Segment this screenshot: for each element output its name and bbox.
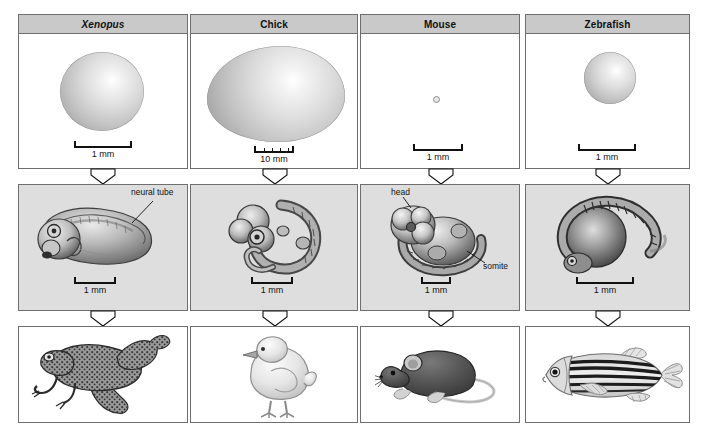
scalebar-tick [280,148,281,151]
egg-panel-mouse: Mouse 1 mm [360,14,520,169]
embryo-stage-xenopus: neural tube 1 mm [19,185,187,310]
adult-stage-mouse [361,327,519,422]
scalebar-label: 1 mm [74,285,116,295]
column-zebrafish: Zebrafish 1 mm [525,0,690,437]
scalebar-label: 1 mm [74,149,132,159]
model-organism-development-figure: Xenopus 1 mm [0,0,711,437]
arrow-embryo-to-adult-mouse [426,310,456,327]
egg-panel-zebrafish: Zebrafish 1 mm [525,14,690,169]
arrow-egg-to-embryo-mouse [426,168,456,185]
scalebar-bar [254,146,294,153]
column-header-mouse: Mouse [361,15,519,34]
column-header-chick: Chick [191,15,357,34]
embryo-stage-chick: 1 mm [191,185,357,310]
scalebar-embryo-xenopus: 1 mm [74,277,116,295]
embryo-stage-zebrafish: 1 mm [526,185,689,310]
column-xenopus: Xenopus 1 mm [18,0,188,437]
scalebar-bar [578,144,636,151]
egg-stage-zebrafish: 1 mm [526,34,689,170]
scalebar-egg-mouse: 1 mm [413,144,463,162]
zebrafish-illustration [534,341,684,411]
scalebar-tick [264,148,265,151]
scalebar-bar [74,141,132,148]
adult-panel-mouse [360,326,520,423]
annotation-neural-tube: neural tube [131,187,174,197]
scalebar-egg-zebrafish: 1 mm [578,144,636,162]
arrow-egg-to-embryo-chick [260,168,290,185]
embryo-panel-mouse: head somite 1 mm [360,184,520,311]
scalebar-bar [576,277,634,284]
embryo-stage-mouse: head somite 1 mm [361,185,519,310]
scalebar-label: 1 mm [421,285,451,295]
adult-panel-chick [190,326,358,423]
egg-stage-xenopus: 1 mm [19,34,187,170]
frog-illustration [31,331,181,419]
egg-stage-mouse: 1 mm [361,34,519,170]
chick-illustration [227,331,327,421]
arrow-embryo-to-adult-zebrafish [593,310,623,327]
scalebar-label: 1 mm [413,152,463,162]
scalebar-bar [74,277,116,284]
scalebar-egg-xenopus: 1 mm [74,141,132,159]
mouse-illustration [375,339,513,413]
embryo-panel-xenopus: neural tube 1 mm [18,184,188,311]
egg-panel-chick: Chick 10 mm [190,14,358,169]
arrow-embryo-to-adult-chick [260,310,290,327]
scalebar-egg-chick: 10 mm [254,146,294,164]
zebrafish-embryo-illustration [540,193,674,277]
adult-stage-xenopus [19,327,187,422]
egg-chick [207,46,345,142]
egg-stage-chick: 10 mm [191,34,357,170]
arrow-egg-to-embryo-xenopus [88,168,118,185]
adult-panel-xenopus [18,326,188,423]
scalebar-bar [251,277,293,284]
scalebar-embryo-mouse: 1 mm [421,277,451,295]
arrow-egg-to-embryo-zebrafish [593,168,623,185]
scalebar-bar [413,144,463,151]
egg-xenopus [60,52,144,131]
scalebar-label: 1 mm [576,285,634,295]
scalebar-label: 10 mm [254,154,294,164]
scalebar-bar [421,277,451,284]
chick-embryo-illustration [217,195,335,277]
scalebar-tick [288,148,289,151]
scalebar-embryo-zebrafish: 1 mm [576,277,634,295]
somite-leader-line [465,249,487,265]
column-header-xenopus: Xenopus [19,15,187,34]
adult-panel-zebrafish [525,326,690,423]
neural-tube-leader-line [127,199,157,225]
embryo-panel-zebrafish: 1 mm [525,184,690,311]
adult-stage-zebrafish [526,327,689,422]
scalebar-embryo-chick: 1 mm [251,277,293,295]
column-header-zebrafish: Zebrafish [526,15,689,34]
scalebar-label: 1 mm [578,152,636,162]
egg-panel-xenopus: Xenopus 1 mm [18,14,188,169]
scalebar-tick [272,148,273,151]
column-mouse: Mouse 1 mm [360,0,520,437]
egg-mouse [433,96,440,103]
head-leader-line [401,196,417,210]
embryo-panel-chick: 1 mm [190,184,358,311]
column-chick: Chick 10 mm [190,0,358,437]
egg-zebrafish [584,52,636,104]
arrow-embryo-to-adult-xenopus [88,310,118,327]
scalebar-label: 1 mm [251,285,293,295]
adult-stage-chick [191,327,357,422]
